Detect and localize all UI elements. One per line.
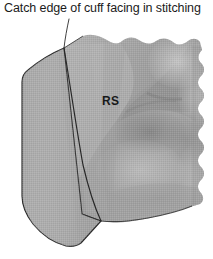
sewing-illustration-figure: Catch edge of cuff facing in stitching R… [0, 0, 213, 259]
caption-label: Catch edge of cuff facing in stitching [4, 1, 210, 15]
illustration-canvas [0, 0, 213, 259]
right-side-label: RS [102, 94, 119, 108]
caption-leader-line [64, 19, 69, 48]
